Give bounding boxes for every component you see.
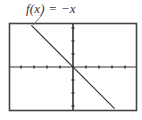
graph-window <box>0 0 142 120</box>
function-label: f(x) = −x <box>26 1 76 17</box>
